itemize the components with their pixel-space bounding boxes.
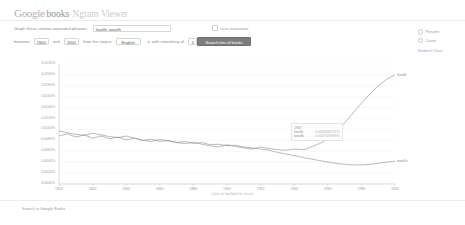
y-axis-tick: 0.0040% xyxy=(29,160,55,164)
case-insensitive-label: case-insensitive xyxy=(220,26,248,31)
chart-tooltip: 1947 health0.0063580737% wealth0.0047383… xyxy=(291,123,343,141)
x-axis-tick: 1920 xyxy=(251,187,271,191)
unit-option-percent[interactable]: Percent xyxy=(418,29,439,35)
options-row: between 1800 and 2000 from the corpus En… xyxy=(14,38,141,46)
tooltip-year: 1947 xyxy=(294,126,340,130)
embed-chart-link[interactable]: Embed Chart xyxy=(418,48,443,53)
y-axis-tick: 0.0120% xyxy=(29,117,55,121)
x-axis-tick: 1820 xyxy=(83,187,103,191)
unit-percent-label: Percent xyxy=(425,29,439,34)
radio-count-icon[interactable] xyxy=(418,38,423,43)
between-label: between xyxy=(14,39,29,44)
tooltip-row: wealth0.0047383699% xyxy=(294,134,340,138)
y-axis-tick: 0.0020% xyxy=(29,171,55,175)
page-title: GooglebooksNgram Viewer xyxy=(14,7,128,19)
unit-option-count[interactable]: Count xyxy=(418,38,439,44)
y-axis-tick: 0.0060% xyxy=(29,149,55,153)
x-axis-tick: 1960 xyxy=(318,187,338,191)
unit-toggle-group: Percent Count xyxy=(418,29,439,46)
series-line xyxy=(59,134,395,165)
ngram-viewer-page: GooglebooksNgram Viewer Graph these comm… xyxy=(0,0,465,225)
and-label: and xyxy=(53,39,60,44)
corpus-label: from the corpus xyxy=(83,39,111,44)
y-axis-tick: 0.0000% xyxy=(29,182,55,186)
year-end-input[interactable]: 2000 xyxy=(64,38,79,45)
ngram-chart[interactable]: 0.0220%0.0200%0.0180%0.0160%0.0140%0.012… xyxy=(0,56,465,201)
series-label[interactable]: wealth xyxy=(397,159,407,163)
ngram-viewer-title: Ngram Viewer xyxy=(72,9,128,19)
tooltip-series-value: 0.0047383699% xyxy=(315,134,340,138)
y-axis-tick: 0.0220% xyxy=(29,62,55,66)
unit-count-label: Count xyxy=(425,38,436,43)
smoothing-control: ▸with smoothing of 3 xyxy=(148,38,197,45)
chart-gridlines xyxy=(59,64,395,184)
y-axis-tick: 0.0200% xyxy=(29,73,55,77)
chart-svg xyxy=(0,56,465,201)
x-axis-tick: 1880 xyxy=(183,187,203,191)
query-row: Graph these comma-separated phrases: hea… xyxy=(14,25,171,33)
x-axis-tick: 1860 xyxy=(150,187,170,191)
y-axis-tick: 0.0140% xyxy=(29,106,55,110)
search-google-books-link[interactable]: Search in Google Books xyxy=(22,206,65,211)
x-axis-tick: 1800 xyxy=(49,187,69,191)
x-axis-tick: 2000 xyxy=(385,187,405,191)
smoothing-input[interactable]: 3 xyxy=(188,38,197,45)
search-button[interactable]: Search lots of books xyxy=(197,37,251,46)
x-axis-title: (click on line/label for focus) xyxy=(0,192,465,196)
header-divider xyxy=(0,20,465,21)
series-label[interactable]: health xyxy=(397,73,407,77)
case-insensitive-checkbox[interactable] xyxy=(212,25,218,31)
radio-percent-icon[interactable] xyxy=(418,29,423,34)
x-axis-tick: 1940 xyxy=(284,187,304,191)
query-label: Graph these comma-separated phrases: xyxy=(14,26,88,31)
chevron-right-icon: ▸ xyxy=(148,39,150,44)
x-axis-tick: 1900 xyxy=(217,187,237,191)
footer-divider xyxy=(0,200,465,201)
query-input[interactable]: health, wealth xyxy=(93,25,171,32)
corpus-select[interactable]: English xyxy=(116,38,141,45)
year-start-input[interactable]: 1800 xyxy=(34,38,49,45)
y-axis-tick: 0.0180% xyxy=(29,84,55,88)
books-logo[interactable]: books xyxy=(47,9,70,19)
x-axis-tick: 1980 xyxy=(351,187,371,191)
y-axis-tick: 0.0080% xyxy=(29,138,55,142)
tooltip-series-name: wealth xyxy=(294,134,307,138)
x-axis-tick: 1840 xyxy=(116,187,136,191)
smoothing-label: with smoothing of xyxy=(152,39,184,44)
y-axis-tick: 0.0100% xyxy=(29,127,55,131)
chart-axes xyxy=(59,64,395,186)
case-insensitive-control[interactable]: case-insensitive xyxy=(212,25,248,31)
google-logo[interactable]: Google xyxy=(14,7,45,19)
y-axis-tick: 0.0160% xyxy=(29,95,55,99)
